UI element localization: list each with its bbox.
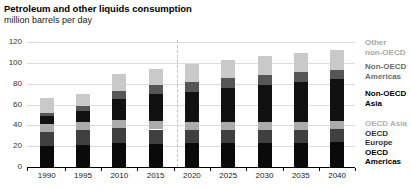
x-axis-tick-8 xyxy=(319,168,320,171)
legend-item-oecd-europe: OECDEurope xyxy=(365,129,411,148)
y-tick-label-20: 20 xyxy=(0,141,22,150)
x-axis-tick-1 xyxy=(65,168,66,171)
bar-2010-segment-non-oecd-americas xyxy=(112,91,126,98)
bar-2025-segment-other-non-oecd xyxy=(221,60,235,79)
bar-2035-segment-non-oecd-asia xyxy=(294,82,308,122)
bar-2020-segment-other-non-oecd xyxy=(185,64,199,82)
bar-2015-segment-oecd-asia xyxy=(149,121,163,130)
bar-2030-segment-oecd-europe xyxy=(258,130,272,143)
bar-2030-segment-oecd-asia xyxy=(258,122,272,130)
gridline-120 xyxy=(27,42,355,43)
bar-2010-segment-non-oecd-asia xyxy=(112,99,126,120)
bar-2040-segment-other-non-oecd xyxy=(330,50,344,70)
legend-item-other-non-oecd: Othernon-OECD xyxy=(365,38,411,57)
bar-2010-segment-oecd-asia xyxy=(112,120,126,128)
x-tick-label-2010: 2010 xyxy=(101,171,137,180)
bar-1995-segment-non-oecd-asia xyxy=(76,111,90,122)
bar-2020-segment-oecd-asia xyxy=(185,122,199,130)
y-tick-label-60: 60 xyxy=(0,100,22,109)
x-axis-tick-5 xyxy=(210,168,211,171)
bar-2010-segment-oecd-americas xyxy=(112,143,126,167)
legend-label-line: Asia xyxy=(365,99,411,109)
legend-label-line: Americas xyxy=(365,157,411,167)
x-axis-tick-2 xyxy=(101,168,102,171)
bar-1995-segment-non-oecd-americas xyxy=(76,106,90,111)
bar-2020-segment-non-oecd-americas xyxy=(185,82,199,92)
bar-1990-segment-non-oecd-asia xyxy=(40,116,54,124)
legend-item-non-oecd-asia: Non-OECDAsia xyxy=(365,89,411,108)
bar-1995-segment-oecd-europe xyxy=(76,130,90,145)
y-tick-label-100: 100 xyxy=(0,58,22,67)
legend-label-line: non-OECD xyxy=(365,48,411,58)
bar-2035-segment-oecd-americas xyxy=(294,143,308,167)
y-tick-label-0: 0 xyxy=(0,162,22,171)
y-tick-label-40: 40 xyxy=(0,120,22,129)
x-axis-line xyxy=(27,167,355,168)
x-axis-tick-7 xyxy=(283,168,284,171)
y-tick-label-80: 80 xyxy=(0,79,22,88)
bar-1990-segment-non-oecd-americas xyxy=(40,113,54,117)
bar-2010-segment-other-non-oecd xyxy=(112,74,126,91)
x-tick-label-1990: 1990 xyxy=(29,171,65,180)
plot-area: 0204060801001201990199520102015202020252… xyxy=(0,0,411,189)
x-axis-tick-6 xyxy=(246,168,247,171)
x-axis-tick-4 xyxy=(174,168,175,171)
bar-2030-segment-other-non-oecd xyxy=(258,56,272,75)
bar-2040-segment-oecd-americas xyxy=(330,142,344,167)
x-tick-label-2025: 2025 xyxy=(210,171,246,180)
bar-2015-segment-non-oecd-asia xyxy=(149,94,163,121)
legend-label-line: Europe xyxy=(365,138,411,148)
bar-2030-segment-oecd-americas xyxy=(258,143,272,167)
legend-item-oecd-asia: OECD Asia xyxy=(365,119,411,129)
legend-item-oecd-americas: OECDAmericas xyxy=(365,148,411,167)
bar-2015-segment-oecd-europe xyxy=(149,130,163,145)
bar-2035-segment-other-non-oecd xyxy=(294,53,308,72)
bar-2040-segment-oecd-europe xyxy=(330,129,344,142)
bar-1995-segment-other-non-oecd xyxy=(76,94,90,107)
x-tick-label-2030: 2030 xyxy=(247,171,283,180)
bar-2040-segment-non-oecd-asia xyxy=(330,79,344,121)
legend-label-line: Other xyxy=(365,38,411,48)
x-tick-label-1995: 1995 xyxy=(65,171,101,180)
x-tick-label-2020: 2020 xyxy=(174,171,210,180)
legend-label-line: OECD xyxy=(365,148,411,158)
x-tick-label-2015: 2015 xyxy=(138,171,174,180)
bar-2035-segment-oecd-asia xyxy=(294,122,308,130)
history-projection-divider xyxy=(177,40,178,167)
legend-label-line: Americas xyxy=(365,72,411,82)
bar-1990-segment-other-non-oecd xyxy=(40,98,54,113)
bar-2025-segment-oecd-asia xyxy=(221,122,235,130)
legend-label-line: OECD xyxy=(365,129,411,139)
x-axis-tick-9 xyxy=(355,168,356,171)
bar-2035-segment-non-oecd-americas xyxy=(294,72,308,82)
bar-2025-segment-non-oecd-asia xyxy=(221,88,235,121)
x-axis-tick-3 xyxy=(137,168,138,171)
legend-label-line: OECD Asia xyxy=(365,119,411,129)
bar-2020-segment-oecd-europe xyxy=(185,130,199,143)
bar-2040-segment-non-oecd-americas xyxy=(330,70,344,79)
y-tick-label-120: 120 xyxy=(0,37,22,46)
bar-1990-segment-oecd-americas xyxy=(40,146,54,167)
bar-2030-segment-non-oecd-asia xyxy=(258,85,272,121)
bar-2020-segment-oecd-americas xyxy=(185,143,199,167)
chart-frame: Petroleum and other liquids consumption … xyxy=(0,0,411,189)
bar-2020-segment-non-oecd-asia xyxy=(185,92,199,122)
x-tick-label-2040: 2040 xyxy=(319,171,355,180)
bar-1990-segment-oecd-asia xyxy=(40,124,54,132)
bar-2030-segment-non-oecd-americas xyxy=(258,75,272,85)
bar-2025-segment-oecd-americas xyxy=(221,143,235,167)
bar-2010-segment-oecd-europe xyxy=(112,128,126,143)
bar-2025-segment-oecd-europe xyxy=(221,130,235,143)
bar-2015-segment-oecd-americas xyxy=(149,144,163,167)
bar-2015-segment-other-non-oecd xyxy=(149,69,163,85)
legend-label-line: Non-OECD xyxy=(365,89,411,99)
bar-1995-segment-oecd-asia xyxy=(76,122,90,130)
bar-2015-segment-non-oecd-americas xyxy=(149,85,163,94)
legend-item-non-oecd-americas: Non-OECDAmericas xyxy=(365,62,411,81)
bar-2025-segment-non-oecd-americas xyxy=(221,78,235,88)
legend-label-line: Non-OECD xyxy=(365,62,411,72)
bar-2040-segment-oecd-asia xyxy=(330,121,344,129)
x-tick-label-2035: 2035 xyxy=(283,171,319,180)
bar-2035-segment-oecd-europe xyxy=(294,130,308,143)
bar-1995-segment-oecd-americas xyxy=(76,145,90,167)
